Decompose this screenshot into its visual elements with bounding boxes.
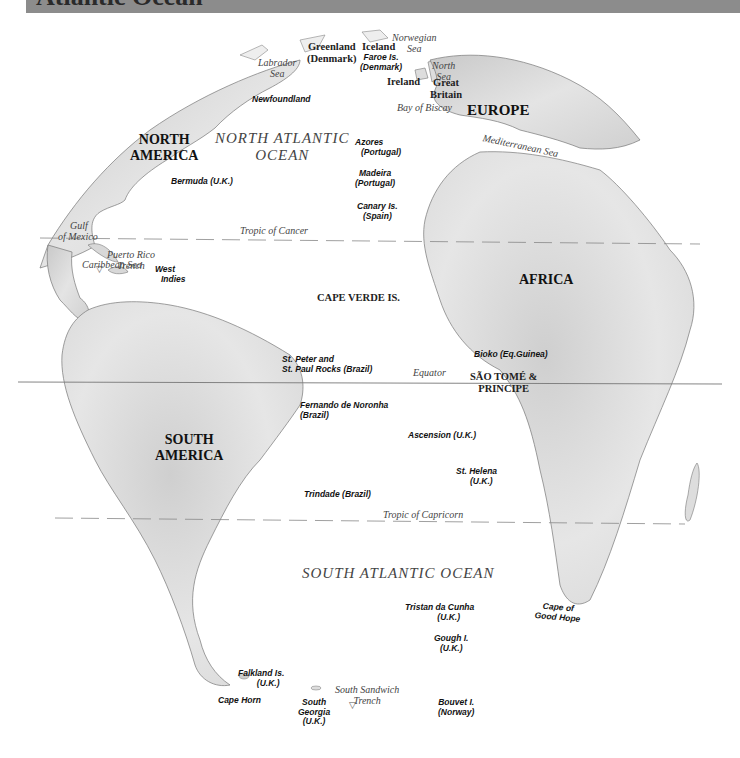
- label-st-helena: St. Helena(U.K.): [456, 467, 497, 486]
- label-cape-verde: CAPE VERDE IS.: [317, 292, 400, 304]
- label-tropic-of-cancer: Tropic of Cancer: [240, 225, 308, 236]
- central-america-land: [47, 245, 89, 322]
- label-gough-island: Gough I.(U.K.): [434, 634, 468, 653]
- europe-land: [430, 55, 640, 149]
- label-cape-of-good-hope: Cape ofGood Hope: [534, 601, 581, 624]
- south-america-land: [62, 302, 303, 686]
- label-north-atlantic-ocean: NORTH ATLANTICOCEAN: [215, 130, 349, 164]
- label-newfoundland: Newfoundland: [252, 95, 311, 105]
- label-iceland: Iceland: [362, 41, 395, 53]
- label-ireland: Ireland: [387, 76, 420, 88]
- label-bay-of-biscay: Bay of Biscay: [397, 102, 452, 113]
- label-africa: AFRICA: [519, 272, 573, 288]
- label-west-indies: WestIndies: [155, 265, 186, 284]
- south-georgia-land: [311, 686, 321, 690]
- label-labrador-sea: LabradorSea: [258, 57, 296, 79]
- label-tristan-da-cunha: Tristan da Cunha(U.K.): [405, 603, 474, 622]
- label-europe: EUROPE: [467, 102, 530, 119]
- label-great-britain: GreatBritain: [430, 77, 462, 101]
- label-falkland-islands: Falkland Is.(U.K.): [238, 669, 284, 688]
- label-south-sandwich-trench: South SandwichTrench: [335, 684, 399, 706]
- label-azores: Azores(Portugal): [355, 138, 401, 157]
- label-canary-islands: Canary Is.(Spain): [357, 202, 398, 221]
- label-sao-tome-principe: SÃO TOMÉ &PRINCIPE: [470, 371, 537, 395]
- label-ascension: Ascension (U.K.): [408, 431, 476, 441]
- label-faroe-islands: Faroe Is.(Denmark): [360, 53, 402, 72]
- label-south-georgia: SouthGeorgia(U.K.): [298, 698, 330, 727]
- label-south-atlantic-ocean: SOUTH ATLANTIC OCEAN: [302, 565, 495, 582]
- label-madeira: Madeira(Portugal): [355, 169, 395, 188]
- label-bouvet-island: Bouvet I.(Norway): [438, 698, 474, 717]
- label-bermuda: Bermuda (U.K.): [171, 177, 233, 187]
- label-equator: Equator: [413, 367, 446, 378]
- label-greenland: Greenland(Denmark): [307, 41, 357, 65]
- label-south-america: SOUTHAMERICA: [155, 432, 223, 463]
- label-st-peter-paul-rocks: St. Peter andSt. Paul Rocks (Brazil): [282, 355, 372, 374]
- label-cape-horn: Cape Horn: [218, 696, 261, 706]
- label-puerto-rico-trench: Puerto RicoTrench: [107, 249, 155, 271]
- label-gulf-of-mexico: Gulfof Mexico: [58, 220, 98, 242]
- africa-land: [424, 152, 694, 604]
- label-tropic-of-capricorn: Tropic of Capricorn: [383, 509, 463, 520]
- landmasses: ▽ ▽: [0, 0, 740, 758]
- label-bioko: Bioko (Eq.Guinea): [474, 350, 548, 360]
- label-fernando-de-noronha: Fernando de Noronha(Brazil): [300, 401, 388, 420]
- label-north-america: NORTHAMERICA: [130, 132, 198, 163]
- madagascar-land: [685, 463, 699, 521]
- label-norwegian-sea: NorwegianSea: [392, 32, 436, 54]
- label-trindade: Trindade (Brazil): [304, 490, 371, 500]
